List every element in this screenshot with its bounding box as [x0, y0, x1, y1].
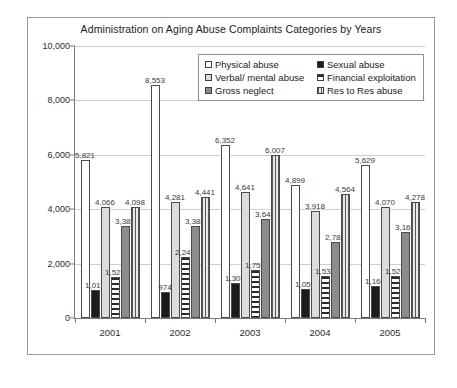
- bar[interactable]: 4,564: [341, 194, 350, 318]
- y-axis-tick-label: 6,000: [47, 150, 70, 160]
- chart-title: Administration on Aging Abuse Complaints…: [28, 23, 434, 35]
- bar-value-label: 4,098: [125, 198, 145, 207]
- bar[interactable]: 1,059: [301, 289, 310, 318]
- legend-item[interactable]: Gross neglect: [205, 85, 313, 96]
- bar-slot: 1,019: [91, 46, 100, 318]
- bar[interactable]: 6,352: [221, 145, 230, 318]
- chart-frame: Administration on Aging Abuse Complaints…: [27, 17, 435, 355]
- bar[interactable]: 4,641: [241, 192, 250, 318]
- bar[interactable]: 4,281: [171, 202, 180, 318]
- bar[interactable]: 4,441: [201, 197, 210, 318]
- x-axis-tick-label: 2003: [239, 327, 260, 338]
- bar[interactable]: 4,899: [291, 185, 300, 318]
- x-axis-tick-mark: [425, 318, 426, 323]
- y-axis-tick-label: 10,000: [42, 41, 70, 51]
- bar-value-label: 4,278: [405, 193, 425, 202]
- legend-swatch-icon: [317, 87, 324, 94]
- bar-slot: 4,098: [131, 46, 140, 318]
- legend-swatch-icon: [205, 74, 212, 81]
- bar-value-label: 6,007: [265, 146, 285, 155]
- x-axis-tick-label: 2002: [169, 327, 190, 338]
- legend-swatch-icon: [317, 74, 324, 81]
- bar[interactable]: 3,385: [121, 226, 130, 318]
- x-axis-tick-label: 2001: [99, 327, 120, 338]
- bar[interactable]: 974: [161, 292, 170, 318]
- bar[interactable]: 5,629: [361, 165, 370, 318]
- bar[interactable]: 5,821: [81, 160, 90, 318]
- bar-slot: 8,553: [151, 46, 160, 318]
- bar[interactable]: 4,278: [411, 202, 420, 318]
- bar[interactable]: 1,538: [321, 276, 330, 318]
- legend-item[interactable]: Sexual abuse: [317, 59, 425, 70]
- bar-group-bars: 5,8211,0194,0661,5223,3854,098: [75, 46, 145, 318]
- bar-slot: 1,522: [111, 46, 120, 318]
- bar[interactable]: 2,785: [331, 242, 340, 318]
- legend-item-label: Physical abuse: [215, 59, 279, 70]
- legend-item[interactable]: Physical abuse: [205, 59, 313, 70]
- legend-swatch-icon: [205, 61, 212, 68]
- bar[interactable]: 1,755: [251, 270, 260, 318]
- bar-value-label: 4,564: [335, 185, 355, 194]
- legend-item[interactable]: Verbal/ mental abuse: [205, 72, 313, 83]
- x-axis-tick-label: 2005: [379, 327, 400, 338]
- legend-item-label: Financial exploitation: [327, 72, 416, 83]
- bar-slot: 3,385: [121, 46, 130, 318]
- bar-slot: 974: [161, 46, 170, 318]
- bar[interactable]: 2,241: [181, 257, 190, 318]
- x-axis-tick-mark: [285, 318, 286, 323]
- legend-item[interactable]: Res to Res abuse: [317, 85, 425, 96]
- y-axis-tick-label: 4,000: [47, 204, 70, 214]
- bar-slot: 4,066: [101, 46, 110, 318]
- legend-item-label: Verbal/ mental abuse: [215, 72, 304, 83]
- bar[interactable]: 4,070: [381, 207, 390, 318]
- bar[interactable]: 6,007: [271, 155, 280, 318]
- x-axis-tick-mark: [215, 318, 216, 323]
- bar[interactable]: 3,918: [311, 211, 320, 318]
- bar-slot: 5,821: [81, 46, 90, 318]
- bar-slot: 4,281: [171, 46, 180, 318]
- bar[interactable]: 1,302: [231, 283, 240, 318]
- bar[interactable]: 1,019: [91, 290, 100, 318]
- bar[interactable]: 3,645: [261, 219, 270, 318]
- bar-slot: 2,241: [181, 46, 190, 318]
- bar[interactable]: 3,385: [191, 226, 200, 318]
- x-axis-tick-mark: [75, 318, 76, 323]
- chart-legend: Physical abuseSexual abuseVerbal/ mental…: [198, 54, 424, 101]
- x-axis-tick-label: 2004: [309, 327, 330, 338]
- y-axis-labels: 02,0004,0006,0008,00010,000: [28, 18, 70, 356]
- y-axis-tick-label: 8,000: [47, 95, 70, 105]
- legend-item-label: Res to Res abuse: [327, 85, 403, 96]
- legend-item[interactable]: Financial exploitation: [317, 72, 425, 83]
- bar[interactable]: 3,165: [401, 232, 410, 318]
- bar[interactable]: 4,098: [131, 207, 140, 318]
- bar[interactable]: 1,160: [371, 286, 380, 318]
- bar[interactable]: 1,528: [391, 276, 400, 318]
- bar[interactable]: 1,522: [111, 277, 120, 318]
- bar-group: 5,8211,0194,0661,5223,3854,0982001: [75, 46, 145, 318]
- legend-swatch-icon: [205, 87, 212, 94]
- legend-swatch-icon: [317, 61, 324, 68]
- bar[interactable]: 4,066: [101, 207, 110, 318]
- x-axis-tick-mark: [355, 318, 356, 323]
- legend-item-label: Gross neglect: [215, 85, 274, 96]
- y-axis-tick-label: 2,000: [47, 259, 70, 269]
- legend-item-label: Sexual abuse: [327, 59, 385, 70]
- x-axis-tick-mark: [145, 318, 146, 323]
- bar-value-label: 4,441: [195, 188, 215, 197]
- gridline: [75, 318, 425, 319]
